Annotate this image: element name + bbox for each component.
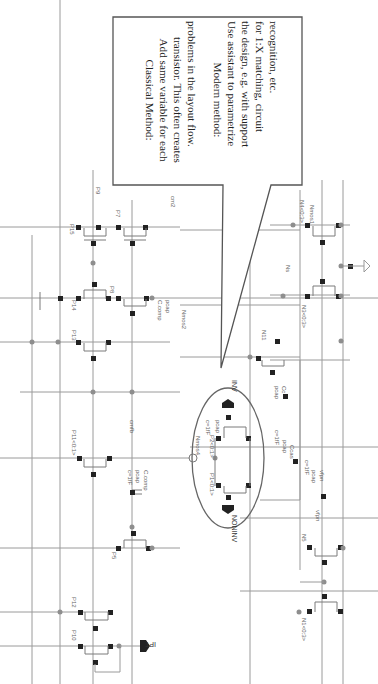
svg-text:vfpn: vfpn — [319, 470, 325, 481]
cap-pcap-3: pcap — [215, 420, 221, 434]
transistor-n1: N1<0:3> — [297, 580, 344, 642]
svg-text:N3<0:3>: N3<0:3> — [301, 305, 307, 329]
svg-text:pcap: pcap — [274, 386, 280, 400]
net-ns: Ns — [285, 265, 291, 272]
label-p1: P1<0:1> — [209, 473, 215, 496]
label-p12: P12 — [71, 597, 77, 608]
svg-text:the design, e.g. with support: the design, e.g. with support — [240, 21, 252, 148]
svg-text:Ccas: Ccas — [289, 445, 295, 459]
svg-text:c=1fF: c=1fF — [304, 460, 310, 476]
net-vfpn: vfpn — [315, 510, 321, 521]
label-p10: P10 — [71, 630, 77, 641]
cap-pcap-1: pcap — [165, 300, 171, 314]
label-p8: P8 — [109, 286, 115, 294]
svg-text:pcap: pcap — [311, 470, 317, 484]
transistor-n5: N5 — [301, 534, 346, 565]
svg-text:pcap: pcap — [282, 440, 288, 454]
label-p5: P5 — [111, 552, 117, 560]
svg-text:Use assistant to parametrize: Use assistant to parametrize — [226, 21, 238, 146]
cap-value-1: c=1fF — [127, 470, 133, 486]
cap-ccomp: C.comp — [157, 300, 163, 321]
svg-text:problems in the layout flow.: problems in the layout flow. — [186, 21, 198, 147]
label-p11: P11<0:1> — [71, 430, 77, 456]
svg-text:Nmos1: Nmos1 — [309, 205, 315, 225]
ground-symbol — [364, 260, 370, 272]
svg-text:for 1:X matching, circuit: for 1:X matching, circuit — [254, 21, 266, 133]
transistor-p15 — [76, 225, 106, 246]
svg-text:transistor. This often creates: transistor. This often creates — [172, 37, 184, 163]
cap-pcap-2: pcap — [135, 470, 141, 484]
pin-inv: INV — [222, 380, 238, 408]
pin-inv-label: INV — [231, 380, 238, 392]
transistor-p13 — [56, 340, 112, 362]
cap-value-2: c=1fF — [205, 420, 211, 436]
transistor-p11 — [77, 456, 112, 477]
svg-text:N5: N5 — [301, 534, 307, 542]
transistor-n4: N4<0:3> Nmos1 — [291, 200, 344, 245]
label-p15: P15 — [69, 224, 75, 235]
net-cmfb: cmfb — [129, 420, 135, 434]
label-p7: P7 — [115, 210, 121, 218]
svg-text:N4<0:3>: N4<0:3> — [299, 200, 305, 224]
svg-text:N11: N11 — [261, 330, 267, 341]
classical-title: Classical Method: — [144, 59, 156, 140]
net-nmos2: Nmos2 — [181, 310, 187, 330]
net-nmos4: Nmos4 — [195, 436, 201, 456]
transistor-p12 — [58, 610, 114, 632]
label-p14: P14 — [71, 300, 77, 311]
circuit-schematic: IPT P15 P7 P9 P14 P8 P13 P11<0:1> P5 P12… — [0, 0, 378, 684]
svg-text:Cc: Cc — [281, 386, 287, 393]
svg-text:N1<0:3>: N1<0:3> — [301, 618, 307, 642]
modern-title: Modern method: — [212, 63, 224, 138]
net-cm2: cm2 — [170, 196, 176, 208]
transistor-p1 — [216, 483, 251, 500]
transistor-n11: N11 — [256, 330, 284, 375]
pin-noninv-label: NONINV — [231, 515, 238, 543]
transistor-p8 — [106, 296, 155, 317]
pin-ipt: IPT — [120, 640, 156, 652]
cap-ccomp-2: C.comp — [143, 470, 149, 491]
label-p13: P13 — [71, 330, 77, 341]
svg-text:c=1fF: c=1fF — [274, 430, 280, 446]
svg-text:recognition, etc.: recognition, etc. — [268, 21, 280, 94]
schematic-canvas: IPT P15 P7 P9 P14 P8 P13 P11<0:1> P5 P12… — [0, 0, 378, 684]
svg-text:Add same variable for each: Add same variable for each — [158, 38, 170, 161]
label-p2: P2<0:1> — [209, 435, 215, 458]
transistor-n3: N3<0:3> — [281, 279, 344, 329]
transistor-p10 — [78, 644, 122, 673]
label-p9: P9 — [95, 187, 101, 195]
pin-ipt-label: IPT — [144, 641, 156, 648]
pin-noninv: NONINV — [222, 505, 238, 543]
